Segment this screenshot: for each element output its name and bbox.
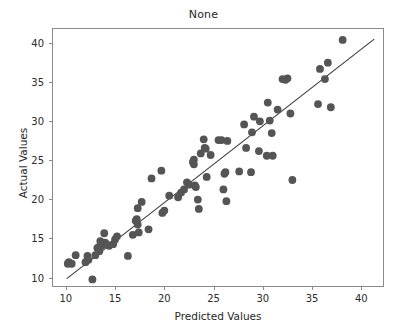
data-points-group bbox=[64, 36, 347, 283]
data-point bbox=[85, 256, 93, 264]
y-tick-mark bbox=[49, 82, 52, 83]
y-tick-mark bbox=[49, 121, 52, 122]
data-point bbox=[138, 198, 146, 206]
x-tick-mark bbox=[66, 287, 67, 290]
data-point bbox=[145, 225, 153, 233]
data-point bbox=[284, 74, 292, 82]
x-tick-mark bbox=[214, 287, 215, 290]
data-point bbox=[264, 99, 272, 107]
data-point bbox=[314, 100, 322, 108]
data-point bbox=[339, 36, 347, 44]
data-point bbox=[192, 183, 200, 191]
x-axis-label: Predicted Values bbox=[52, 310, 384, 322]
data-point bbox=[165, 192, 173, 200]
data-point bbox=[242, 144, 250, 152]
x-tick-label: 15 bbox=[109, 293, 122, 304]
data-point bbox=[135, 229, 143, 237]
data-point bbox=[190, 160, 198, 168]
data-point bbox=[222, 168, 230, 176]
data-point bbox=[203, 173, 211, 181]
x-tick-label: 30 bbox=[256, 293, 269, 304]
data-point bbox=[160, 207, 168, 215]
data-point bbox=[235, 168, 243, 176]
data-point bbox=[327, 103, 335, 111]
data-point bbox=[220, 186, 228, 194]
data-point bbox=[134, 221, 142, 229]
x-tick-mark bbox=[164, 287, 165, 290]
data-point bbox=[255, 147, 263, 155]
data-point bbox=[202, 145, 210, 153]
data-point bbox=[274, 106, 282, 114]
data-point bbox=[247, 168, 255, 176]
data-point bbox=[324, 59, 332, 67]
y-tick-mark bbox=[49, 278, 52, 279]
y-tick-label: 40 bbox=[14, 37, 44, 48]
data-point bbox=[113, 232, 121, 240]
data-point bbox=[248, 128, 256, 136]
plot-canvas bbox=[53, 29, 385, 288]
x-tick-mark bbox=[312, 287, 313, 290]
data-point bbox=[240, 121, 248, 129]
data-point bbox=[89, 275, 97, 283]
y-tick-label: 10 bbox=[14, 272, 44, 283]
plot-axes-area bbox=[52, 28, 384, 287]
data-point bbox=[72, 251, 80, 259]
data-point bbox=[222, 197, 230, 205]
y-tick-mark bbox=[49, 43, 52, 44]
x-tick-mark bbox=[263, 287, 264, 290]
data-point bbox=[194, 196, 202, 204]
x-tick-label: 10 bbox=[59, 293, 72, 304]
x-tick-mark bbox=[361, 287, 362, 290]
data-point bbox=[124, 252, 132, 260]
x-tick-label: 25 bbox=[207, 293, 220, 304]
data-point bbox=[266, 117, 274, 125]
data-point bbox=[256, 117, 264, 125]
data-point bbox=[268, 129, 276, 137]
data-point bbox=[269, 152, 277, 160]
y-axis-label: Actual Values bbox=[17, 93, 29, 233]
data-point bbox=[223, 137, 231, 145]
data-point bbox=[195, 205, 203, 213]
data-point bbox=[148, 175, 156, 183]
y-tick-mark bbox=[49, 199, 52, 200]
y-tick-label: 35 bbox=[14, 76, 44, 87]
y-tick-mark bbox=[49, 238, 52, 239]
y-tick-label: 15 bbox=[14, 233, 44, 244]
data-point bbox=[316, 65, 324, 73]
data-point bbox=[288, 176, 296, 184]
data-point bbox=[207, 151, 215, 159]
data-point bbox=[200, 135, 208, 143]
x-tick-label: 20 bbox=[158, 293, 171, 304]
x-tick-label: 40 bbox=[355, 293, 368, 304]
data-point bbox=[287, 110, 295, 118]
data-point bbox=[100, 229, 108, 237]
y-tick-mark bbox=[49, 160, 52, 161]
data-point bbox=[68, 260, 76, 268]
scatter-plot-figure: None 10152025303540 10152025303540 Predi… bbox=[0, 0, 407, 332]
data-point bbox=[157, 167, 165, 175]
x-tick-mark bbox=[115, 287, 116, 290]
x-tick-label: 35 bbox=[306, 293, 319, 304]
data-point bbox=[321, 75, 329, 83]
chart-title: None bbox=[0, 8, 407, 21]
